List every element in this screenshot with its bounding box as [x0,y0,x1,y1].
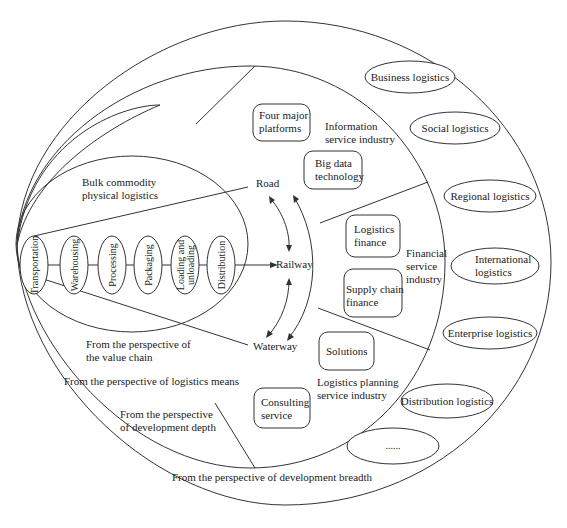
step-label: Warehousing [69,239,80,292]
step-label: unloading [185,245,196,285]
railway-label: Railway [276,258,313,270]
development-breadth-perspective: From the perspective of development brea… [172,471,373,483]
box-label: platforms [259,122,301,134]
box-label: finance [354,236,386,248]
box-label: Big data [315,157,352,169]
financial-service-label: Financial [406,247,447,259]
value-chain-steps: Transportation Warehousing Processing Pa… [20,236,278,295]
box-label: Solutions [326,345,368,357]
information-service-label: service industry [325,133,395,145]
divider-bottom [215,403,255,468]
planning-service-label: service industry [317,389,387,401]
step-label: Transportation [29,236,40,295]
box-label: technology [315,170,364,182]
breadth-label: Enterprise logistics [448,327,533,339]
development-depth-perspective: of development depth [120,421,216,433]
breadth-label: Regional logistics [450,190,529,202]
logistics-means-perspective: From the perspective of logistics means [64,375,239,387]
step-label: Processing [107,243,118,286]
breadth-label: Social logistics [422,122,489,134]
planning-service-label: Logistics planning [317,376,399,388]
box-label: Supply chain [346,283,404,295]
breadth-label: logistics [475,266,512,278]
waterway-label: Waterway [253,340,298,352]
step-label: Distribution [216,241,227,289]
value-chain-perspective: From the perspective of [86,338,191,350]
breadth-label: International [475,253,531,265]
step-label: Packaging [143,244,154,286]
breadth-label: Distribution logistics [401,395,494,407]
box-label: service [261,409,292,421]
information-service-label: Information [325,120,378,132]
box-label: finance [346,296,378,308]
value-chain-perspective: the value chain [86,351,153,363]
financial-service-label: service [406,260,437,272]
development-depth-perspective: From the perspective [120,408,213,420]
box-consulting-service [254,388,310,428]
divider-top [196,66,255,124]
road-label: Road [256,177,280,189]
breadth-label: ...... [386,440,401,451]
bulk-commodity-title: Bulk commodity [82,176,157,188]
bulk-commodity-title: physical logistics [82,189,158,201]
financial-service-label: industry [406,273,443,285]
box-label: Consulting [261,396,310,408]
box-label: Logistics [354,223,394,235]
logistics-perspectives-diagram: Transportation Warehousing Processing Pa… [0,0,567,528]
breadth-label: Business logistics [371,71,450,83]
box-label: Four major [259,109,309,121]
